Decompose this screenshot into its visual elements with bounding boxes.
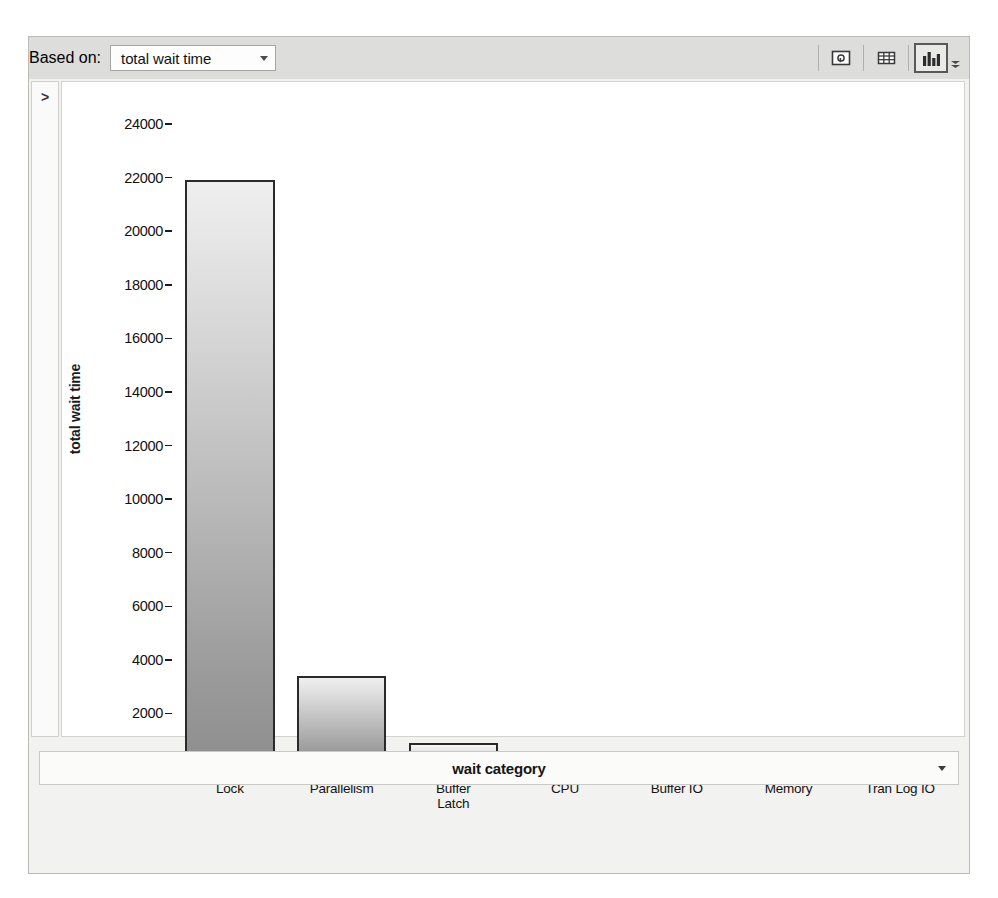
zoom-detail-icon: [831, 50, 851, 66]
y-axis-tick-mark: [165, 230, 172, 232]
plot: 2400022000200001800016000140001200010000…: [88, 82, 964, 736]
x-axis-title: wait category: [452, 760, 545, 777]
chevron-down-overflow-icon: [950, 55, 961, 73]
y-axis-tick: 12000: [124, 439, 172, 453]
y-axis-tick-mark: [165, 123, 172, 125]
y-axis-tick-label: 16000: [124, 330, 163, 346]
y-axis-tick-mark: [165, 391, 172, 393]
toolbar-divider: [818, 45, 819, 71]
x-axis-title-bar[interactable]: wait category: [39, 751, 959, 785]
toolbar-overflow-button[interactable]: [948, 39, 962, 77]
y-axis-ticks: 2400022000200001800016000140001200010000…: [88, 82, 172, 736]
plot-area: [174, 82, 956, 736]
chevron-right-icon: >: [41, 90, 49, 736]
y-axis-title: total wait time: [62, 82, 88, 736]
y-axis-tick-label: 4000: [132, 652, 163, 668]
y-axis-tick: 8000: [132, 546, 172, 560]
y-axis-tick-label: 18000: [124, 277, 163, 293]
y-axis-tick: 16000: [124, 331, 172, 345]
toolbar: Based on: total wait time: [29, 37, 969, 79]
y-axis-tick: 22000: [124, 171, 172, 185]
y-axis-tick: 6000: [132, 599, 172, 613]
y-axis-tick: 2000: [132, 706, 172, 720]
y-axis-tick-mark: [165, 177, 172, 179]
x-axis-label-line: Latch: [397, 796, 509, 811]
y-axis-tick-label: 10000: [124, 491, 163, 507]
bar[interactable]: [185, 180, 274, 767]
y-axis-tick-label: 20000: [124, 223, 163, 239]
toolbar-divider: [863, 45, 864, 71]
bar-slot: [286, 82, 398, 767]
toolbar-divider: [908, 45, 909, 71]
y-axis-tick-mark: [165, 659, 172, 661]
bar-slot: [621, 82, 733, 767]
y-axis-tick: 20000: [124, 224, 172, 238]
bar-slot: [733, 82, 845, 767]
y-axis-tick-mark: [165, 445, 172, 447]
y-axis-tick: 24000: [124, 117, 172, 131]
chart-panel: total wait time 240002200020000180001600…: [61, 81, 965, 737]
y-axis-tick-label: 6000: [132, 598, 163, 614]
y-axis-tick-mark: [165, 284, 172, 286]
y-axis-tick: 18000: [124, 278, 172, 292]
y-axis-tick-label: 8000: [132, 545, 163, 561]
y-axis-tick-mark: [165, 713, 172, 715]
toolbar-buttons: [813, 37, 969, 79]
y-axis-tick-label: 14000: [124, 384, 163, 400]
y-axis-tick-label: 24000: [124, 116, 163, 132]
y-axis-tick: 4000: [132, 653, 172, 667]
based-on-dropdown[interactable]: total wait time: [110, 45, 276, 71]
chevron-down-icon: [938, 766, 946, 771]
widget-body: > total wait time 2400022000200001800016…: [29, 79, 969, 873]
table-view-button[interactable]: [869, 43, 903, 73]
wait-stats-chart-widget: Based on: total wait time: [28, 36, 970, 874]
bar-slot: [397, 82, 509, 767]
y-axis-tick-label: 22000: [124, 170, 163, 186]
left-panel-expander[interactable]: >: [31, 81, 59, 737]
y-axis-tick-mark: [165, 552, 172, 554]
y-axis-tick-label: 12000: [124, 438, 163, 454]
bar-slot: [844, 82, 956, 767]
y-axis-tick-mark: [165, 338, 172, 340]
grid-table-icon: [877, 50, 896, 66]
chart-view-button[interactable]: [914, 43, 948, 73]
based-on-value: total wait time: [121, 50, 211, 67]
bar-slot: [509, 82, 621, 767]
chevron-down-icon: [260, 56, 268, 61]
zoom-detail-button[interactable]: [824, 43, 858, 73]
y-axis-tick-label: 2000: [132, 705, 163, 721]
y-axis-tick-mark: [165, 498, 172, 500]
bar-chart-icon: [921, 50, 941, 67]
y-axis-tick: 10000: [124, 492, 172, 506]
y-axis-tick: 14000: [124, 385, 172, 399]
based-on-label: Based on:: [29, 49, 101, 67]
x-axis-label: BufferLatch: [397, 781, 509, 811]
bar-slot: [174, 82, 286, 767]
y-axis-tick-mark: [165, 606, 172, 608]
